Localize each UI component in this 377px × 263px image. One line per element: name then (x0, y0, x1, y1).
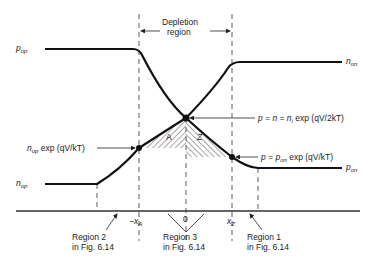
tick-xz: xZ (226, 216, 235, 227)
region1-label-1: Region 1 (247, 232, 281, 242)
tick-zero: 0 (183, 214, 188, 224)
region3-label-2: in Fig. 6.14 (163, 242, 205, 252)
depletion-label-2: region (167, 27, 191, 37)
n-on-label: non (346, 56, 358, 67)
pn-junction-carrier-diagram: Depletion region pop non nop pon p = n =… (0, 0, 377, 263)
region2-arrow (106, 214, 117, 230)
electron-concentration-curve (45, 62, 342, 184)
region2-label-2: in Fig. 6.14 (72, 242, 114, 252)
region1-label-2: in Fig. 6.14 (247, 242, 289, 252)
junction-point (183, 115, 190, 122)
junction-equation: p = n = ni exp (qV/2kT) (257, 113, 344, 124)
p-on-label: pon (345, 162, 358, 173)
n-edge-equation: nop exp (qV/kT) (27, 143, 85, 154)
p-edge-point (229, 154, 235, 160)
region-z-label: Z (196, 132, 203, 142)
region-a-label: A (166, 132, 172, 142)
depletion-label-1: Depletion (162, 17, 198, 27)
region1-arrow (250, 214, 262, 230)
p-edge-equation: p = pon exp (qV/kT) (260, 152, 333, 163)
n-edge-point (136, 145, 142, 151)
tick-minus-xa: −xA (129, 216, 142, 227)
n-op-label: nop (16, 178, 28, 189)
region2-label-1: Region 2 (72, 232, 106, 242)
p-op-label: pop (15, 43, 28, 54)
region3-label-1: Region 3 (163, 232, 197, 242)
